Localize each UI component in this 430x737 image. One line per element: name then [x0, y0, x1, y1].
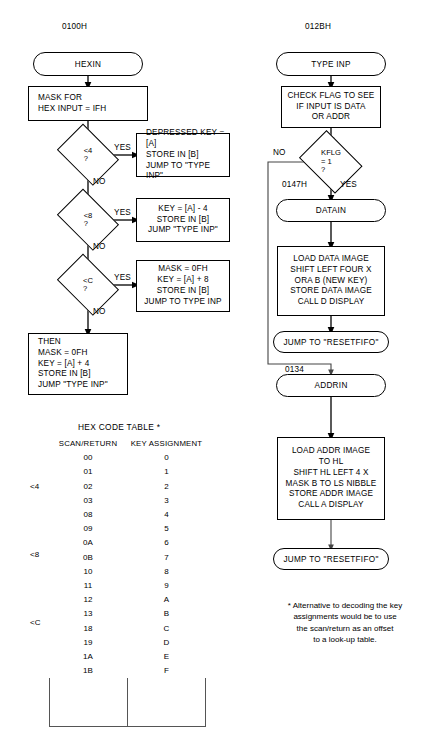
cell-scan-return: 08: [49, 508, 127, 522]
footnote-text: * Alternative to decoding the key assign…: [265, 600, 425, 645]
kflg-yes-label: YES: [340, 180, 357, 189]
cell-scan-return: 0B: [49, 551, 127, 565]
table-row: 0B7: [49, 551, 206, 565]
table-row: 033: [49, 494, 206, 508]
terminal-jump-resetfifo-addr: JUMP TO "RESETFIFO": [273, 548, 389, 570]
cell-key-assignment: 6: [127, 536, 206, 550]
cell-scan-return: 1A: [49, 650, 127, 664]
terminal-hexin: HEXIN: [33, 52, 143, 76]
table-row: 18C: [49, 622, 206, 636]
cell-scan-return: 00: [49, 451, 127, 465]
flowchart-canvas: 0100H HEXIN MASK FOR HEX INPUT = IFH <4 …: [0, 0, 430, 737]
cell-scan-return: 19: [49, 636, 127, 650]
process-mask-for-hex-input: MASK FOR HEX INPUT = IFH: [28, 86, 148, 121]
table-row: 095: [49, 522, 206, 536]
decision-label: <8 ?: [53, 195, 123, 245]
decision-1-yes-label: YES: [114, 143, 131, 152]
decision-2-yes-label: YES: [114, 208, 131, 217]
decision-less-than-4: <4 ?: [53, 130, 123, 180]
table-row: 119: [49, 579, 206, 593]
table-row: 19D: [49, 636, 206, 650]
hex-table-body: 0000110220330840950A60B710811912A13B18C1…: [49, 451, 206, 678]
decision-2-no-label: NO: [93, 242, 106, 251]
cell-key-assignment: C: [127, 622, 206, 636]
datain-address-label: 0147H: [282, 180, 307, 189]
process-depressed-key: DEPRESSED KEY = [A] STORE IN [B] JUMP TO…: [136, 133, 230, 177]
cell-scan-return: 11: [49, 579, 127, 593]
cell-key-assignment: 5: [127, 522, 206, 536]
process-then-fallthrough: THEN MASK = 0FH KEY = [A] + 4 STORE IN […: [28, 333, 128, 395]
table-row: 084: [49, 508, 206, 522]
cell-scan-return: 01: [49, 465, 127, 479]
cell-key-assignment: 7: [127, 551, 206, 565]
cell-scan-return: 09: [49, 522, 127, 536]
cell-key-assignment: 9: [127, 579, 206, 593]
decision-1-no-label: NO: [93, 177, 106, 186]
cell-key-assignment: 8: [127, 565, 206, 579]
terminal-jump-resetfifo-data: JUMP TO "RESETFIFO": [273, 331, 389, 353]
terminal-datain: DATAIN: [276, 199, 386, 222]
cell-key-assignment: 0: [127, 451, 206, 465]
right-flow-address-label: 012BH: [305, 22, 331, 31]
process-key-minus-4: KEY = [A] - 4 STORE IN [B] JUMP "TYPE IN…: [136, 198, 230, 242]
decision-less-than-c: <C ?: [53, 260, 123, 310]
cell-key-assignment: D: [127, 636, 206, 650]
cell-scan-return: 03: [49, 494, 127, 508]
decision-label: <4 ?: [53, 130, 123, 180]
cell-key-assignment: A: [127, 593, 206, 607]
table-row: 022: [49, 480, 206, 494]
cell-key-assignment: E: [127, 650, 206, 664]
table-row: 000: [49, 451, 206, 465]
decision-label: <C ?: [53, 260, 123, 310]
process-load-addr-image: LOAD ADDR IMAGE TO HL SHIFT HL LEFT 4 X …: [277, 437, 385, 520]
cell-scan-return: 13: [49, 607, 127, 621]
hex-code-table-title: HEX CODE TABLE *: [78, 422, 160, 432]
terminal-type-inp: TYPE INP: [276, 52, 386, 76]
cell-key-assignment: 1: [127, 465, 206, 479]
table-row: 108: [49, 565, 206, 579]
table-row: 011: [49, 465, 206, 479]
table-row: 1AE: [49, 650, 206, 664]
decision-less-than-8: <8 ?: [53, 195, 123, 245]
cell-scan-return: 1B: [49, 664, 127, 678]
hex-table-header-key-assignment: KEY ASSIGNMENT: [127, 437, 206, 451]
hex-table-group-label-ltc: <C: [30, 618, 40, 627]
table-row: 0A6: [49, 536, 206, 550]
cell-key-assignment: B: [127, 607, 206, 621]
process-mask-0fh-plus-8: MASK = 0FH KEY = [A] + 8 STORE IN [B] JU…: [136, 260, 230, 312]
cell-scan-return: 10: [49, 565, 127, 579]
cell-scan-return: 0A: [49, 536, 127, 550]
table-row: 1BF: [49, 664, 206, 678]
decision-3-no-label: NO: [93, 307, 106, 316]
cell-key-assignment: F: [127, 664, 206, 678]
hex-table-header-row: SCAN/RETURN KEY ASSIGNMENT: [49, 437, 206, 451]
cell-scan-return: 18: [49, 622, 127, 636]
process-check-flag: CHECK FLAG TO SEE IF INPUT IS DATA OR AD…: [281, 86, 381, 128]
kflg-no-label: NO: [273, 148, 286, 157]
cell-scan-return: 02: [49, 480, 127, 494]
cell-scan-return: 12: [49, 593, 127, 607]
decision-3-yes-label: YES: [114, 273, 131, 282]
terminal-addrin: ADDRIN: [276, 374, 386, 397]
left-flow-address-label: 0100H: [62, 22, 87, 31]
cell-key-assignment: 4: [127, 508, 206, 522]
addrin-address-label: 0134: [285, 365, 304, 374]
hex-code-table: SCAN/RETURN KEY ASSIGNMENT 0000110220330…: [49, 437, 206, 678]
cell-key-assignment: 3: [127, 494, 206, 508]
cell-key-assignment: 2: [127, 480, 206, 494]
hex-table-header-scan-return: SCAN/RETURN: [49, 437, 127, 451]
hex-table-group-label-lt4: <4: [30, 482, 39, 491]
table-row: 13B: [49, 607, 206, 621]
process-load-data-image: LOAD DATA IMAGE SHIFT LEFT FOUR X ORA B …: [277, 246, 385, 316]
table-row: 12A: [49, 593, 206, 607]
hex-table-group-label-lt8: <8: [30, 550, 39, 559]
